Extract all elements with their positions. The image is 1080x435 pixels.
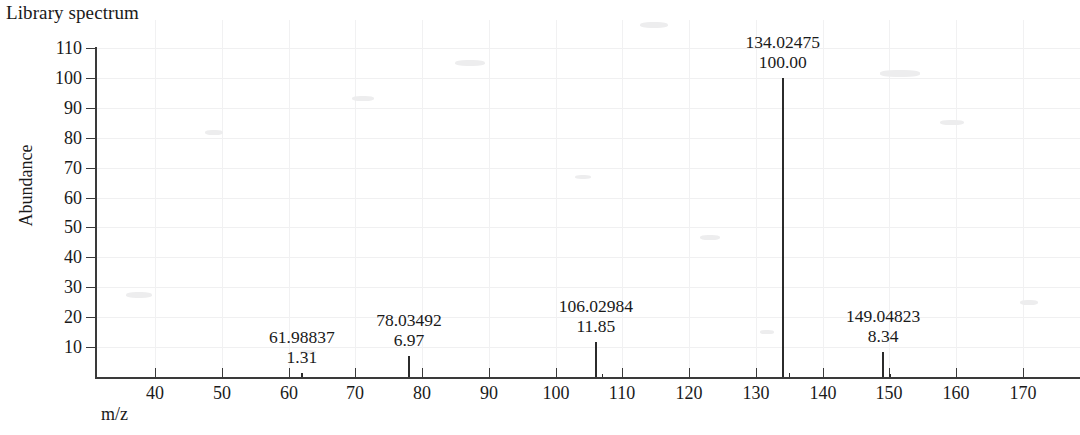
y-axis-tick-label: 80 xyxy=(36,129,82,147)
y-axis-tick-label: 50 xyxy=(36,218,82,236)
peak-abundance-value: 8.34 xyxy=(783,326,983,346)
gridline-vertical xyxy=(289,20,290,377)
y-axis-tick-label: 40 xyxy=(36,248,82,266)
x-axis-tick-label: 120 xyxy=(659,384,719,403)
gridline-horizontal xyxy=(97,48,1080,49)
scan-artifact xyxy=(640,22,668,28)
spectrum-peak xyxy=(301,373,303,377)
spectrum-peak xyxy=(595,342,597,377)
gridline-horizontal xyxy=(97,108,1080,109)
peak-mz-value: 149.04823 xyxy=(783,306,983,326)
spectrum-peak xyxy=(882,352,884,377)
scan-artifact xyxy=(1020,300,1038,305)
x-axis-tick-label: 80 xyxy=(392,384,452,403)
spectrum-peak xyxy=(602,374,604,377)
y-axis-tick-label: 30 xyxy=(36,278,82,296)
x-axis-tick-label: 170 xyxy=(993,384,1053,403)
x-axis-tick xyxy=(1023,368,1024,378)
x-axis-tick-label: 110 xyxy=(592,384,652,403)
gridline-horizontal xyxy=(97,287,1080,288)
x-axis-tick xyxy=(823,368,824,378)
y-axis-tick xyxy=(86,347,96,348)
y-axis-tick xyxy=(86,108,96,109)
x-axis-tick-label: 140 xyxy=(793,384,853,403)
x-axis-tick-label: 150 xyxy=(859,384,919,403)
y-axis-title: Abundance xyxy=(16,126,37,246)
scan-artifact xyxy=(760,330,774,334)
spectrum-peak xyxy=(789,373,791,377)
gridline-horizontal xyxy=(97,198,1080,199)
peak-abundance-value: 6.97 xyxy=(309,330,509,350)
x-axis-tick xyxy=(155,368,156,378)
gridline-vertical xyxy=(1023,20,1024,377)
spectrum-peak xyxy=(889,374,891,377)
gridline-horizontal xyxy=(97,78,1080,79)
x-axis-title: m/z xyxy=(101,404,128,425)
spectrum-peak xyxy=(408,356,410,377)
x-axis-tick xyxy=(556,368,557,378)
y-axis-tick xyxy=(86,48,96,49)
x-axis-tick-label: 60 xyxy=(259,384,319,403)
scan-artifact xyxy=(880,70,920,77)
x-axis-tick xyxy=(756,368,757,378)
x-axis-tick xyxy=(355,368,356,378)
x-axis-tick-label: 90 xyxy=(459,384,519,403)
peak-abundance-value: 100.00 xyxy=(683,52,883,72)
x-axis-tick-label: 160 xyxy=(926,384,986,403)
gridline-horizontal xyxy=(97,227,1080,228)
y-axis-tick-label: 110 xyxy=(36,39,82,57)
y-axis-tick-label: 60 xyxy=(36,189,82,207)
gridline-horizontal xyxy=(97,257,1080,258)
peak-abundance-value: 11.85 xyxy=(496,316,696,336)
y-axis-tick-label: 20 xyxy=(36,308,82,326)
x-axis-tick-label: 40 xyxy=(125,384,185,403)
x-axis-tick-label: 100 xyxy=(526,384,586,403)
gridline-horizontal xyxy=(97,168,1080,169)
x-axis-tick xyxy=(489,368,490,378)
y-axis-line xyxy=(95,47,97,379)
x-axis-tick-label: 50 xyxy=(192,384,252,403)
peak-label: 78.034926.97 xyxy=(309,310,509,350)
y-axis-tick xyxy=(86,317,96,318)
scan-artifact xyxy=(126,292,152,298)
scan-artifact xyxy=(205,130,223,135)
y-axis-tick xyxy=(86,227,96,228)
gridline-horizontal xyxy=(97,138,1080,139)
peak-label: 149.048238.34 xyxy=(783,306,983,346)
x-axis-tick xyxy=(422,368,423,378)
x-axis-line xyxy=(95,377,1080,379)
scan-artifact xyxy=(940,120,964,125)
scan-artifact xyxy=(700,235,720,240)
x-axis-tick xyxy=(289,368,290,378)
scan-artifact xyxy=(575,175,591,179)
y-axis-tick xyxy=(86,257,96,258)
peak-mz-value: 78.03492 xyxy=(309,310,509,330)
y-axis-tick xyxy=(86,138,96,139)
x-axis-tick xyxy=(956,368,957,378)
gridline-vertical xyxy=(155,20,156,377)
y-axis-tick xyxy=(86,78,96,79)
y-axis-tick xyxy=(86,168,96,169)
gridline-vertical xyxy=(222,20,223,377)
x-axis-tick-label: 130 xyxy=(726,384,786,403)
y-axis-tick-label: 90 xyxy=(36,99,82,117)
chart-title: Library spectrum xyxy=(6,2,139,24)
gridline-vertical xyxy=(756,20,757,377)
x-axis-tick xyxy=(622,368,623,378)
y-axis-tick-label: 10 xyxy=(36,338,82,356)
scan-artifact xyxy=(352,96,374,101)
peak-mz-value: 106.02984 xyxy=(496,296,696,316)
y-axis-tick-label: 70 xyxy=(36,159,82,177)
y-axis-tick-label: 100 xyxy=(36,69,82,87)
y-axis-tick xyxy=(86,287,96,288)
x-axis-tick xyxy=(222,368,223,378)
scan-artifact xyxy=(455,60,485,66)
x-axis-tick-label: 70 xyxy=(325,384,385,403)
peak-label: 106.0298411.85 xyxy=(496,296,696,336)
peak-mz-value: 134.02475 xyxy=(683,32,883,52)
y-axis-tick xyxy=(86,198,96,199)
peak-label: 134.02475100.00 xyxy=(683,32,883,72)
x-axis-tick xyxy=(689,368,690,378)
mass-spectrum-chart: Library spectrum Abundance m/z 102030405… xyxy=(0,0,1080,435)
